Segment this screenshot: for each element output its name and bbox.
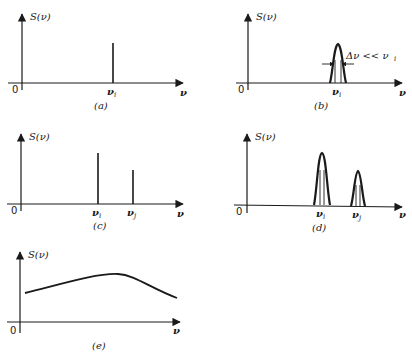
origin-label: 0 <box>238 84 244 95</box>
panel-d: S(ν) 0 ν ν i ν j (d) <box>234 131 406 233</box>
x-axis-label: ν <box>399 87 406 98</box>
y-axis-label: S(ν) <box>28 249 49 260</box>
linewidth-annotation: Δν << ν <box>345 50 389 61</box>
panel-c: S(ν) 0 ν ν i ν j (c) <box>7 131 184 231</box>
origin-label: 0 <box>12 84 18 95</box>
nu-j-label: ν <box>352 209 359 220</box>
caption-c: (c) <box>93 220 107 231</box>
svg-text:i: i <box>394 55 396 63</box>
narrow-peak-j <box>351 171 365 206</box>
y-axis-label: S(ν) <box>256 11 277 22</box>
panel-b: S(ν) 0 ν Δν << ν i ν i (b) <box>236 11 406 111</box>
nu-i-label: ν <box>316 208 323 219</box>
x-axis-label: ν <box>180 87 187 98</box>
narrow-peak-i <box>330 44 346 83</box>
svg-text:i: i <box>323 213 325 221</box>
caption-e: (e) <box>92 340 106 351</box>
svg-text:i: i <box>114 91 116 99</box>
caption-b: (b) <box>314 100 328 111</box>
nu-j-label: ν <box>127 207 134 218</box>
origin-label: 0 <box>11 205 17 216</box>
caption-d: (d) <box>312 222 326 233</box>
y-axis-label: S(ν) <box>30 11 51 22</box>
origin-label: 0 <box>10 325 16 336</box>
x-axis-label: ν <box>177 208 184 219</box>
nu-i-label: ν <box>332 86 339 97</box>
caption-a: (a) <box>94 100 108 111</box>
x-axis <box>234 205 402 207</box>
panel-a: S(ν) 0 ν ν i (a) <box>8 11 187 111</box>
spectra-figure: S(ν) 0 ν ν i (a) S(ν) 0 ν Δν << ν i ν i … <box>0 0 412 358</box>
narrow-peak-i <box>314 153 330 205</box>
continuous-spectrum-curve <box>25 274 177 298</box>
panel-e: S(ν) 0 ν (e) <box>7 249 180 351</box>
nu-i-label: ν <box>107 86 114 97</box>
x-axis-label: ν <box>173 325 180 336</box>
svg-text:i: i <box>99 212 101 220</box>
x-axis-label: ν <box>399 209 406 220</box>
nu-i-label: ν <box>92 207 99 218</box>
origin-label: 0 <box>236 206 242 217</box>
y-axis-label: S(ν) <box>29 131 50 142</box>
y-axis-label: S(ν) <box>255 131 276 142</box>
svg-text:i: i <box>339 91 341 99</box>
